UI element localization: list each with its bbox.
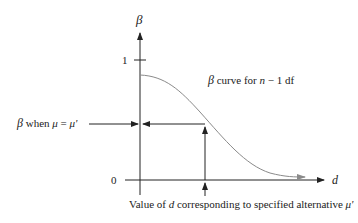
- beta-when-label: β when μ = μ': [16, 116, 78, 130]
- beta-curve: [140, 75, 305, 177]
- tick-one-label: 1: [122, 54, 128, 66]
- curve-label: β curve for n − 1 df: [207, 73, 294, 87]
- beta-curve-diagram: β 1 0 d β curve for n − 1 df β when μ = …: [0, 0, 358, 223]
- bottom-label: Value of d corresponding to specified al…: [129, 198, 354, 210]
- tick-zero-label: 0: [111, 174, 117, 186]
- x-axis-label: d: [332, 173, 339, 187]
- y-axis-label: β: [135, 12, 143, 27]
